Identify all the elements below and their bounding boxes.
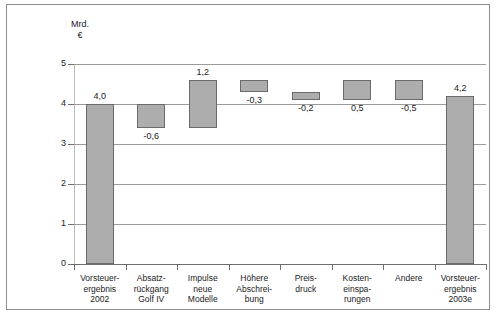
data-label-2: 1,2 [178, 67, 228, 77]
category-label-0: Vorsteuer- ergebnis 2002 [74, 273, 126, 305]
data-label-1: -0,6 [126, 131, 176, 141]
category-label-7: Vorsteuer- ergebnis 2003e [435, 273, 487, 305]
y-tick-4 [68, 104, 74, 105]
category-tick-0 [74, 264, 75, 270]
category-tick-4 [280, 264, 281, 270]
y-tick-3 [68, 144, 74, 145]
data-label-7: 4,2 [435, 83, 485, 93]
y-axis-label-3: 3 [46, 139, 66, 148]
data-label-6: -0,5 [384, 103, 434, 113]
category-label-5: Kosten- einspa- rungen [332, 273, 384, 305]
category-label-4: Preis- druck [280, 273, 332, 294]
y-axis-label-0: 0 [46, 259, 66, 268]
gridline-1 [74, 224, 486, 225]
y-axis-label-2: 2 [46, 179, 66, 188]
y-axis-label-5: 5 [46, 59, 66, 68]
category-tick-2 [177, 264, 178, 270]
bar-2 [189, 80, 217, 128]
bar-5 [343, 80, 371, 100]
category-label-3: Höhere Abschrei- bung [229, 273, 281, 305]
gridline-5 [74, 64, 486, 65]
data-label-0: 4,0 [75, 91, 125, 101]
category-tick-6 [383, 264, 384, 270]
y-axis-label-1: 1 [46, 219, 66, 228]
bar-4 [292, 92, 320, 100]
bar-6 [395, 80, 423, 100]
data-label-5: 0,5 [332, 103, 382, 113]
category-tick-5 [332, 264, 333, 270]
category-tick-8 [486, 264, 487, 270]
y-tick-2 [68, 184, 74, 185]
plot-area: 012345 4,0-0,61,2-0,3-0,20,5-0,54,2 [74, 64, 486, 264]
y-axis-label-4: 4 [46, 99, 66, 108]
gridline-3 [74, 144, 486, 145]
category-tick-1 [126, 264, 127, 270]
bar-7 [446, 96, 474, 264]
gridline-2 [74, 184, 486, 185]
category-label-2: Impulse neue Modelle [177, 273, 229, 305]
category-tick-7 [435, 264, 436, 270]
category-tick-3 [229, 264, 230, 270]
category-label-1: Absatz- rückgang Golf IV [126, 273, 178, 305]
data-label-4: -0,2 [281, 103, 331, 113]
y-tick-1 [68, 224, 74, 225]
bar-0 [86, 104, 114, 264]
y-tick-5 [68, 64, 74, 65]
axis-unit-caption: Mrd. € [53, 19, 107, 41]
chart-frame: Mrd. € 012345 4,0-0,61,2-0,3-0,20,5-0,54… [6, 4, 490, 310]
data-label-3: -0,3 [229, 95, 279, 105]
bar-1 [137, 104, 165, 128]
bar-3 [240, 80, 268, 92]
category-label-6: Andere [383, 273, 435, 284]
